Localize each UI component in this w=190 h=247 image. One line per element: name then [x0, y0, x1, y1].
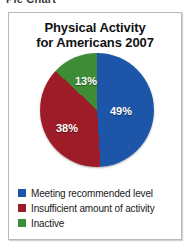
chart-title: Physical Activity for Americans 2007	[9, 13, 181, 50]
legend-label-insufficient-amount-of-activity: Insufficient amount of activity	[31, 203, 155, 214]
legend-item-insufficient-amount-of-activity: Insufficient amount of activity	[18, 201, 178, 215]
pie-graphic	[40, 53, 154, 167]
chart-title-line-1: Physical Activity	[15, 20, 175, 35]
chart-card: Physical Activity for Americans 2007 49%…	[8, 12, 182, 240]
slice-label-meeting-recommended-level: 49%	[110, 105, 132, 117]
legend-label-inactive: Inactive	[31, 218, 64, 229]
legend-item-inactive: Inactive	[18, 216, 178, 230]
legend-swatch-green	[18, 219, 26, 227]
chart-legend: Meeting recommended level Insufficient a…	[18, 186, 178, 231]
pie-chart-area: 49% 38% 13%	[9, 50, 182, 174]
slice-label-inactive: 13%	[75, 75, 97, 87]
chart-title-line-2: for Americans 2007	[15, 35, 175, 50]
legend-swatch-blue	[18, 189, 26, 197]
legend-item-meeting-recommended-level: Meeting recommended level	[18, 186, 178, 200]
slice-label-insufficient-amount-of-activity: 38%	[56, 122, 78, 134]
legend-swatch-red	[18, 204, 26, 212]
legend-label-meeting-recommended-level: Meeting recommended level	[31, 188, 153, 199]
page-header: Pie Chart	[6, 0, 56, 5]
